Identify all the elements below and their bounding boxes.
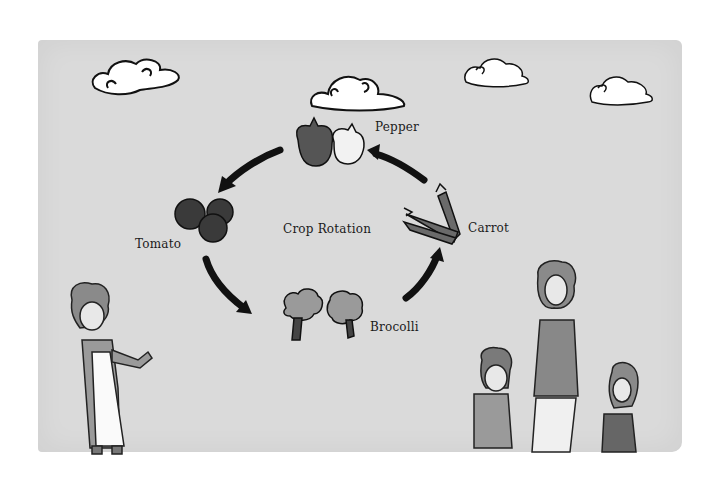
broccoli-icon xyxy=(284,289,362,340)
person-icon xyxy=(602,363,638,452)
crop-label-tomato: Tomato xyxy=(135,237,181,251)
cloud-icon xyxy=(590,77,652,105)
arrow-icon xyxy=(226,150,280,184)
tomato-icon xyxy=(175,199,233,242)
crop-label-pepper: Pepper xyxy=(375,120,419,134)
arrow-icon xyxy=(206,259,244,308)
carrot-icon xyxy=(404,184,460,244)
person-icon xyxy=(71,283,152,454)
illustration-artwork xyxy=(0,0,721,488)
arrow-icon xyxy=(406,256,437,298)
crop-rotation-illustration: Crop Rotation Pepper Carrot Brocolli Tom… xyxy=(0,0,721,488)
arrow-icon xyxy=(376,154,424,180)
person-icon xyxy=(532,261,578,452)
cloud-icon xyxy=(93,60,179,95)
cloud-icon xyxy=(465,59,528,87)
person-icon xyxy=(474,348,512,449)
crop-label-carrot: Carrot xyxy=(468,221,509,235)
cloud-icon xyxy=(311,77,404,111)
pepper-icon xyxy=(297,118,364,166)
crop-label-broccoli: Brocolli xyxy=(370,320,419,334)
diagram-title: Crop Rotation xyxy=(283,222,371,236)
